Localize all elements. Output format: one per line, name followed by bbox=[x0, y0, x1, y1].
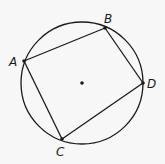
point-d bbox=[141, 81, 145, 85]
label-a: A bbox=[8, 55, 17, 69]
label-b: B bbox=[104, 12, 112, 26]
circle-center-point bbox=[80, 81, 84, 85]
label-d: D bbox=[147, 77, 156, 91]
point-a bbox=[22, 59, 26, 63]
point-b bbox=[103, 26, 107, 30]
point-c bbox=[60, 137, 64, 141]
inscribed-quadrilateral-diagram: ABDC bbox=[0, 0, 165, 164]
label-c: C bbox=[56, 145, 65, 159]
